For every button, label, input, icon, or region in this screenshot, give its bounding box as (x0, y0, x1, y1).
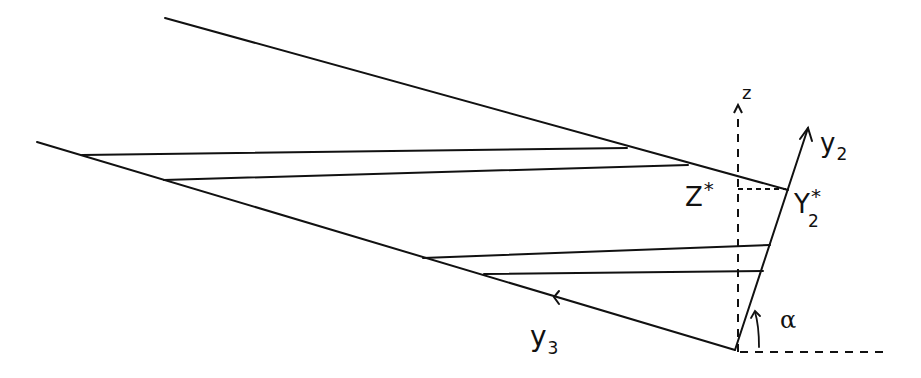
z-axis-label: z (742, 84, 751, 102)
z-star-label: Z* (685, 184, 714, 210)
upper-boundary-line (165, 18, 788, 190)
y3-axis-label: y3 (530, 323, 558, 351)
angle-arc-icon (755, 312, 759, 347)
y2-axis-subscript: 2 (836, 144, 847, 164)
alpha-angle-label: α (780, 308, 796, 332)
y2-axis-line (735, 128, 808, 350)
z-arrowhead-icon (734, 105, 742, 113)
z-star-superscript: * (704, 177, 714, 201)
upper-chord-2 (164, 165, 688, 180)
lower-chord-2 (484, 271, 763, 274)
y2-axis-letter: y (820, 128, 835, 158)
y2-star-superscript: * (811, 184, 821, 208)
y3-axis-letter: y (530, 320, 547, 353)
y2-star-label: Y* 2 (794, 191, 821, 217)
lower-chord-1 (423, 245, 770, 258)
z-star-letter: Z (685, 182, 703, 212)
y2-star-subscript: 2 (808, 213, 819, 230)
y3-axis-subscript: 3 (548, 338, 559, 358)
upper-chord-1 (82, 148, 627, 155)
y2-axis-label: y2 (820, 130, 847, 156)
